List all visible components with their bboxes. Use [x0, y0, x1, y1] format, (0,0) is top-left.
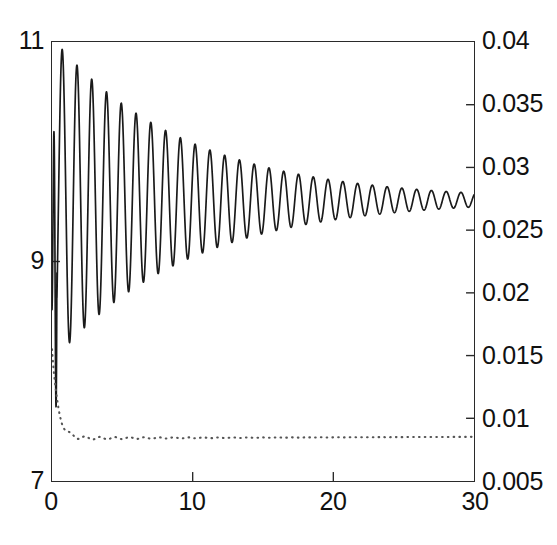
- y-right-tick-label-0.025: 0.025: [482, 217, 543, 242]
- x-tick-label-0: 0: [31, 489, 71, 514]
- x-tick-label-30: 30: [455, 489, 495, 514]
- y-right-tick-label-0.035: 0.035: [482, 91, 543, 116]
- x-tick-label-10: 10: [172, 489, 212, 514]
- y-left-tick-label-9: 9: [0, 248, 44, 273]
- y-left-tick-label-11: 11: [0, 28, 44, 53]
- figure-canvas: 11 9 7 0.04 0.035 0.03 0.025 0.02 0.015 …: [0, 0, 557, 545]
- chart-curves: [52, 42, 474, 481]
- y-right-tick-label-0.03: 0.03: [482, 154, 529, 179]
- plot-area[interactable]: [51, 41, 475, 482]
- y-right-tick-label-0.02: 0.02: [482, 280, 529, 305]
- y-right-tick-label-0.04: 0.04: [482, 28, 529, 53]
- y-right-tick-label-0.01: 0.01: [482, 406, 529, 431]
- series-h-min-dotted: [52, 349, 474, 439]
- y-right-tick-label-0.015: 0.015: [482, 343, 543, 368]
- x-tick-label-20: 20: [313, 489, 353, 514]
- series-p-max-line: [52, 49, 474, 406]
